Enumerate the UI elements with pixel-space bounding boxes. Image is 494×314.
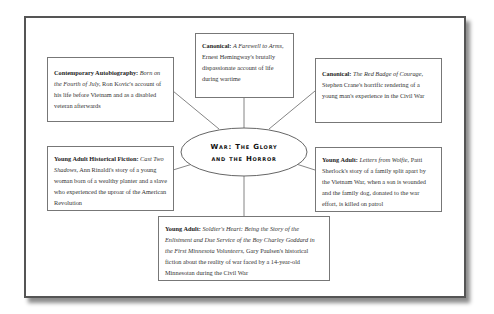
node-category: Young Adult: [322,156,358,163]
node-category: Canonical: [202,42,231,49]
node-top-left: Contemporary Autobiography: Born on the … [47,57,174,122]
node-work-title: Letters from Wolfie, [359,156,409,163]
node-category: Young Adult Historical Fiction: [54,155,139,162]
node-top: Canonical: A Farewell to Arms, Ernest He… [195,33,294,98]
node-description: Ernest Hemingway's brutally dispassionat… [202,53,275,82]
node-top-right: Canonical: The Red Badge of Courage, Ste… [315,58,442,123]
node-description: Patti Sherlock's story of a family split… [322,156,426,207]
node-mid-right: Young Adult: Letters from Wolfie, Patti … [315,147,442,212]
central-topic-line1: War: The Glory [211,141,278,153]
node-work-title: A Farewell to Arms, [233,42,284,49]
node-work-title: The Red Badge of Courage, [353,70,423,77]
central-topic-line2: and the Horror [211,153,276,165]
node-category: Canonical: [322,70,351,77]
node-category: Contemporary Autobiography: [54,69,138,76]
node-bottom: Young Adult: Soldier's Heart: Being the … [158,216,330,281]
central-topic: War: The Glory and the Horror [181,129,307,177]
node-mid-left: Young Adult Historical Fiction: Cast Two… [47,146,174,211]
node-description: Stephen Crane's horrific rendering of a … [322,81,424,99]
node-category: Young Adult: [165,225,201,232]
